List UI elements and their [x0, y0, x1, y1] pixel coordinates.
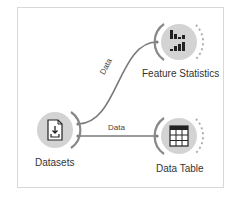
- dataset-download-icon: [48, 120, 62, 140]
- input-anchor-dot: [155, 134, 158, 137]
- link-datasets-feature-statistics[interactable]: [78, 42, 157, 124]
- input-anchor-dot: [155, 40, 158, 43]
- node-feature-statistics[interactable]: [155, 24, 203, 60]
- node-datasets[interactable]: [37, 112, 80, 148]
- link-label-data-table: Data: [108, 123, 125, 132]
- node-data-table[interactable]: [155, 118, 203, 154]
- table-icon: [170, 126, 188, 146]
- node-label-datasets: Datasets: [35, 157, 74, 168]
- node-label-feature-statistics: Feature Statistics: [142, 68, 219, 79]
- output-channel-arc[interactable]: [196, 119, 203, 153]
- node-label-data-table: Data Table: [156, 163, 204, 174]
- output-channel-arc[interactable]: [196, 25, 203, 59]
